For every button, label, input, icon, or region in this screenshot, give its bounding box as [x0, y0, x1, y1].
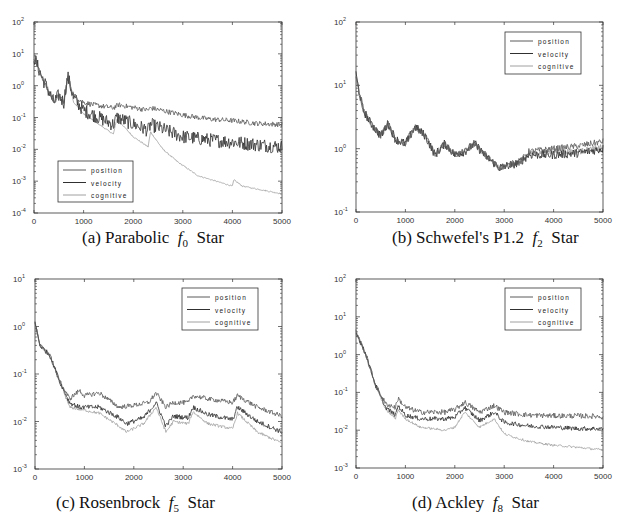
legend-label-velocity: velocity	[538, 307, 569, 315]
x-tick-label: 1000	[397, 472, 415, 481]
y-tick-label: 101	[334, 311, 346, 322]
y-tick-label: 10-3	[334, 462, 348, 473]
y-tick-label: 100	[334, 349, 346, 360]
legend-label-position: position	[538, 294, 570, 302]
y-tick-label: 10-2	[334, 424, 348, 435]
x-tick-label: 4000	[545, 472, 563, 481]
legend: positionvelocitycognitive	[505, 288, 581, 330]
chart-d: 10-310-210-11001011020100020003000400050…	[0, 0, 632, 531]
x-tick-label: 0	[354, 472, 359, 481]
series-cognitive	[356, 332, 603, 450]
chart-d-plot: 10-310-210-11001011020100020003000400050…	[0, 0, 632, 490]
series-position	[356, 330, 603, 419]
legend-label-cognitive: cognitive	[538, 319, 574, 327]
x-tick-label: 5000	[594, 472, 612, 481]
x-tick-label: 3000	[495, 472, 513, 481]
caption-d: (d) Ackley f8 Star	[412, 493, 539, 514]
y-tick-label: 102	[334, 273, 346, 284]
y-tick-label: 10-1	[334, 386, 348, 397]
x-tick-label: 2000	[446, 472, 464, 481]
